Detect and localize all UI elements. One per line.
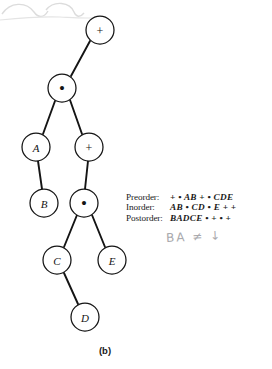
tree-edge (64, 273, 78, 304)
traversal-sequence: BADCE • + • + (170, 213, 231, 223)
tree-edge (38, 161, 42, 189)
node-label: + (86, 141, 93, 155)
expression-tree: + • A + B • C E (0, 0, 272, 369)
tree-edge (70, 100, 82, 134)
node-label: + (97, 24, 104, 38)
tree-edge (92, 215, 105, 247)
tree-edge (64, 215, 77, 247)
node-label: C (53, 255, 61, 267)
tree-node[interactable]: A (22, 133, 50, 161)
tree-edge (71, 41, 90, 76)
traversal-row-inorder: Inorder: AB • CD • E + + (126, 202, 236, 212)
node-label: • (59, 79, 65, 98)
node-label: E (108, 255, 116, 267)
figure-container: + • A + B • C E (0, 0, 272, 369)
tree-node[interactable]: • (70, 189, 98, 217)
traversal-list: Preorder: + • AB + • CDE Inorder: AB • C… (126, 192, 236, 223)
traversal-sequence: AB • CD • E + + (170, 202, 236, 212)
traversal-label: Inorder: (126, 202, 170, 212)
node-label: A (32, 142, 40, 154)
tree-node[interactable]: D (71, 303, 99, 331)
tree-node[interactable]: • (48, 74, 76, 102)
tree-node[interactable]: + (75, 133, 103, 161)
node-label: D (80, 312, 89, 324)
tree-node[interactable]: E (98, 246, 126, 274)
tree-node[interactable]: B (30, 189, 58, 217)
tree-edge (43, 101, 55, 134)
handwritten-annotation: BA ≠ ↓ (166, 229, 223, 245)
tree-edge (85, 161, 88, 189)
figure-caption: (b) (0, 345, 210, 356)
traversal-sequence: + • AB + • CDE (170, 192, 233, 202)
traversal-label: Preorder: (126, 192, 170, 202)
traversal-label: Postorder: (126, 213, 170, 223)
tree-node[interactable]: + (86, 16, 114, 44)
node-label: B (41, 198, 48, 210)
traversal-row-preorder: Preorder: + • AB + • CDE (126, 192, 236, 202)
node-label: • (81, 194, 87, 213)
traversal-row-postorder: Postorder: BADCE • + • + (126, 213, 236, 223)
tree-node[interactable]: C (43, 246, 71, 274)
